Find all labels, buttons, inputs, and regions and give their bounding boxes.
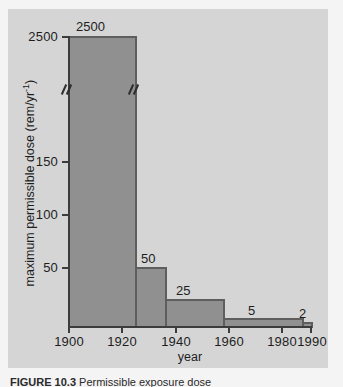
y-axis-line (68, 36, 70, 328)
y-axis-title: maximum permissible dose (rem/yr-1) (21, 58, 37, 308)
figure-caption: FIGURE 10.3 Permissible exposure dose (10, 376, 340, 387)
x-tick-1990 (310, 327, 312, 333)
x-tick-1960 (228, 327, 230, 333)
figure-caption-label: FIGURE 10.3 (10, 376, 76, 387)
x-tick-1940 (175, 327, 177, 333)
y-axis-title-close: ) (23, 80, 37, 84)
y-tick-50 (62, 267, 69, 269)
value-label-50: 50 (141, 251, 155, 266)
y-axis-break-icon (63, 84, 75, 100)
figure-caption-text: Permissible exposure dose (79, 376, 211, 387)
x-tick-label-1900: 1900 (45, 334, 93, 349)
bar-axis-break-icon (130, 84, 142, 100)
x-axis-title: year (68, 350, 312, 364)
value-label-25: 25 (176, 283, 190, 298)
step-bar-2500 (68, 36, 137, 328)
x-tick-1920 (121, 327, 123, 333)
y-tick-100 (62, 214, 69, 216)
value-label-2500: 2500 (76, 19, 105, 34)
y-tick-2500 (62, 36, 69, 38)
y-tick-150 (62, 161, 69, 163)
x-tick-label-1940: 1940 (152, 334, 200, 349)
x-tick-1900 (68, 327, 70, 333)
x-tick-1980 (281, 327, 283, 333)
x-axis-line (68, 326, 312, 328)
y-axis-title-text: maximum permissible dose (rem/yr (23, 92, 37, 286)
x-tick-label-1920: 1920 (98, 334, 146, 349)
step-bar-25 (165, 299, 225, 328)
value-label-2: 2 (299, 306, 306, 321)
y-axis-title-exponent: -1 (21, 84, 31, 92)
y-tick-label-2500: 2500 (12, 29, 58, 44)
plot-area: 2500 50 25 5 2 2500 150 100 50 1900 1920 (0, 0, 343, 387)
step-bar-50 (135, 267, 167, 328)
x-tick-label-1990: 1990 (288, 334, 336, 349)
figure-root: 2500 50 25 5 2 2500 150 100 50 1900 1920 (0, 0, 343, 387)
value-label-5: 5 (248, 303, 255, 318)
x-tick-label-1960: 1960 (205, 334, 253, 349)
